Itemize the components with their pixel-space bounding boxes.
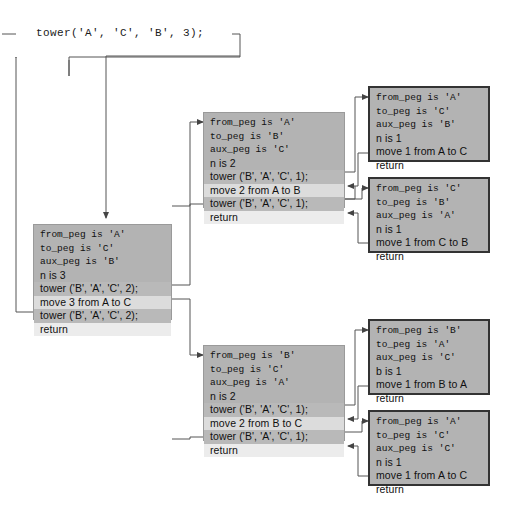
frame-row: n is 1 [370,132,488,146]
frame-row: from_peg is 'C' [370,182,488,196]
frame-row: tower ('B', 'A', 'C', 1); [204,197,344,211]
frame-row: aux_peg is 'B' [34,255,171,269]
frame-row: aux_peg is 'C' [370,442,488,456]
frame-row: n is 3 [34,269,171,283]
frame-row: n is 2 [204,157,344,171]
frame-row: aux_peg is 'A' [370,209,488,223]
frame-row: to_peg is 'B' [370,196,488,210]
root-call-label: tower('A', 'C', 'B', 3); [36,27,204,39]
frame-row: n is 2 [204,390,344,404]
frame-row: aux_peg is 'C' [204,143,344,157]
frame-row: return [370,392,488,406]
frame-row: tower ('B', 'A', 'C', 2); [34,282,171,296]
frame-row: return [204,444,344,458]
frame-row: return [204,211,344,225]
frame-row: tower ('B', 'A', 'C', 1); [204,430,344,444]
frame-row: aux_peg is 'B' [370,118,488,132]
frame-row: tower ('B', 'A', 'C', 1); [204,170,344,184]
frame-row: move 2 from A to B [204,184,344,198]
frame-row: from_peg is 'B' [204,349,344,363]
frame-row: move 2 from B to C [204,417,344,431]
frame-row: aux_peg is 'A' [204,376,344,390]
frame-row: from_peg is 'A' [370,91,488,105]
frame-row: to_peg is 'C' [204,363,344,377]
frame-row: tower ('B', 'A', 'C', 1); [204,403,344,417]
stack-frame-leaf-4: from_peg is 'A'to_peg is 'C'aux_peg is '… [368,410,490,486]
frame-row: return [34,323,171,337]
frame-row: tower ('B', 'A', 'C', 2); [34,309,171,323]
frame-row: from_peg is 'A' [370,415,488,429]
frame-row: n is 1 [370,223,488,237]
frame-row: move 1 from A to C [370,469,488,483]
frame-row: from_peg is 'B' [370,324,488,338]
frame-row: move 1 from C to B [370,236,488,250]
stack-frame-root: from_peg is 'A'to_peg is 'C'aux_peg is '… [33,224,172,320]
frame-row: move 1 from B to A [370,378,488,392]
frame-row: return [370,483,488,497]
frame-row: return [370,250,488,264]
frame-row: move 1 from A to C [370,145,488,159]
stack-frame-leaf-2: from_peg is 'C'to_peg is 'B'aux_peg is '… [368,177,490,253]
frame-row: to_peg is 'A' [370,338,488,352]
frame-row: to_peg is 'C' [34,242,171,256]
stack-frame-mid-bottom: from_peg is 'B'to_peg is 'C'aux_peg is '… [203,345,345,441]
stack-frame-mid-top: from_peg is 'A'to_peg is 'B'aux_peg is '… [203,112,345,208]
frame-row: n is 1 [370,456,488,470]
recursion-trace-diagram: tower('A', 'C', 'B', 3); from_peg is 'A'… [0,0,507,506]
frame-row: from_peg is 'A' [204,116,344,130]
frame-row: to_peg is 'B' [204,130,344,144]
frame-row: to_peg is 'C' [370,429,488,443]
stack-frame-leaf-3: from_peg is 'B'to_peg is 'A'aux_peg is '… [368,319,490,395]
frame-row: to_peg is 'C' [370,105,488,119]
frame-row: from_peg is 'A' [34,228,171,242]
frame-row: b is 1 [370,365,488,379]
stack-frame-leaf-1: from_peg is 'A'to_peg is 'C'aux_peg is '… [368,86,490,162]
frame-row: aux_peg is 'C' [370,351,488,365]
frame-row: return [370,159,488,173]
frame-row: move 3 from A to C [34,296,171,310]
